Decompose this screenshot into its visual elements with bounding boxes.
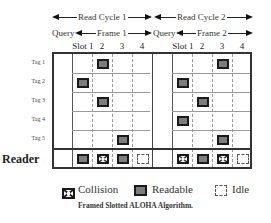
reader-readable-box [117, 154, 129, 164]
tag-transmission-box [197, 97, 209, 107]
reader-label: Reader [2, 152, 39, 167]
idle-legend-label: Idle [232, 183, 249, 195]
slot-label: 3 [112, 41, 132, 51]
tag-label: Tag 3 [15, 97, 45, 103]
tag-label: Tag 5 [15, 135, 45, 141]
figure-caption: Framed Slotted ALOHA Algorithm. [0, 201, 271, 210]
collision-legend-icon [62, 185, 75, 196]
reader-readable-box [77, 154, 89, 164]
reader-collision-icon [97, 154, 109, 164]
read-cycle-1-label: Read Cycle 1 [77, 12, 128, 22]
query-2-label: Query [153, 28, 176, 38]
tag-transmission-box [77, 78, 89, 88]
tag-transmission-box [177, 116, 189, 126]
arrow-right-icon [145, 30, 152, 36]
slot-label: 4 [132, 41, 152, 51]
slot-label: 4 [232, 41, 252, 51]
tag-label: Tag 1 [15, 59, 45, 65]
read-cycle-2-label: Read Cycle 2 [176, 12, 227, 22]
reader-readable-box [197, 154, 209, 164]
tag-label: Tag 4 [15, 116, 45, 122]
reader-idle-box [137, 154, 149, 164]
arrow-right-icon [246, 14, 253, 20]
tag-transmission-box [217, 59, 229, 69]
slot-label: 2 [192, 41, 212, 51]
arrow-right-icon [246, 30, 253, 36]
arrow-right-icon [145, 14, 152, 20]
slot-label: 3 [212, 41, 232, 51]
frame-1-label: Frame 1 [96, 28, 128, 38]
slot-label: 2 [92, 41, 112, 51]
query-1-label: Query [52, 28, 75, 38]
tag-transmission-box [97, 59, 109, 69]
tag-transmission-box [177, 78, 189, 88]
reader-collision-icon [217, 154, 229, 164]
idle-legend-icon [215, 185, 227, 196]
timeline-grid [52, 52, 252, 169]
frame-2-label: Frame 2 [196, 28, 228, 38]
tag-transmission-box [117, 135, 129, 145]
tag-label: Tag 2 [15, 78, 45, 84]
readable-legend-icon [134, 185, 147, 196]
reader-idle-box [237, 154, 249, 164]
tag-transmission-box [217, 135, 229, 145]
tag-transmission-box [97, 97, 109, 107]
collision-legend-label: Collision [78, 183, 118, 195]
reader-collision-icon [177, 154, 189, 164]
readable-legend-label: Readable [152, 183, 193, 195]
